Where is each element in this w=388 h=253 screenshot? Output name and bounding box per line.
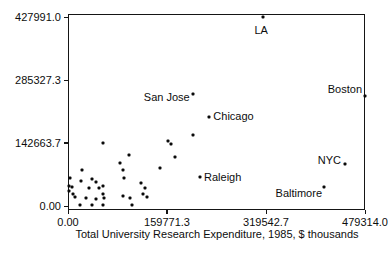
data-point — [71, 193, 74, 196]
data-point — [169, 142, 172, 145]
data-point — [90, 178, 93, 181]
point-label-san-jose: San Jose — [144, 91, 190, 103]
data-point — [118, 162, 121, 165]
x-axis-tick-label: 159771.3 — [144, 216, 190, 228]
data-point — [101, 141, 104, 144]
data-point-chicago — [208, 116, 211, 119]
y-axis-tick-label: 427991.0 — [15, 11, 61, 23]
data-point — [159, 167, 162, 170]
x-axis-tick — [166, 210, 167, 214]
point-label-la: LA — [254, 24, 267, 36]
data-point — [103, 196, 106, 199]
data-point-nyc — [344, 162, 347, 165]
data-point — [88, 186, 91, 189]
data-point-boston — [364, 94, 367, 97]
x-axis-tick — [68, 210, 69, 214]
data-point — [79, 203, 82, 206]
data-point — [174, 156, 177, 159]
x-axis-tick-label: 0.00 — [57, 216, 78, 228]
x-axis-title: Total University Research Expenditure, 1… — [75, 228, 358, 240]
y-axis-tick — [64, 142, 68, 143]
data-point — [95, 181, 98, 184]
point-label-boston: Boston — [328, 83, 362, 95]
x-axis-tick — [266, 210, 267, 214]
data-point — [79, 180, 82, 183]
point-label-chicago: Chicago — [213, 110, 253, 122]
data-point — [144, 186, 147, 189]
data-point — [141, 193, 144, 196]
data-point — [81, 169, 84, 172]
data-point — [95, 197, 98, 200]
data-point — [121, 168, 124, 171]
data-point — [101, 203, 104, 206]
data-point — [90, 203, 93, 206]
data-point — [101, 193, 104, 196]
data-point-la — [262, 16, 265, 19]
data-point — [130, 203, 133, 206]
data-point — [74, 195, 77, 198]
x-axis-tick-label: 319542.7 — [243, 216, 289, 228]
data-point — [101, 184, 104, 187]
data-point — [84, 196, 87, 199]
data-point — [68, 177, 71, 180]
x-axis-tick-label: 479314.0 — [342, 216, 388, 228]
data-point — [191, 133, 194, 136]
point-label-nyc: NYC — [318, 154, 341, 166]
y-axis-tick-label: 285327.3 — [15, 74, 61, 86]
data-point — [122, 194, 125, 197]
y-axis-tick — [64, 206, 68, 207]
point-label-baltimore: Baltimore — [276, 187, 322, 199]
x-axis-tick — [365, 210, 366, 214]
data-point-raleigh — [199, 175, 202, 178]
data-point-san-jose — [191, 93, 194, 96]
scatter-chart: Total University Research Expenditure, 1… — [0, 0, 388, 253]
data-point — [123, 177, 126, 180]
data-point — [145, 195, 148, 198]
y-axis-tick — [64, 80, 68, 81]
data-point — [129, 196, 132, 199]
data-point — [139, 182, 142, 185]
data-point-baltimore — [323, 186, 326, 189]
y-axis-tick-label: 142663.7 — [15, 137, 61, 149]
data-point — [128, 153, 131, 156]
y-axis-tick-label: 0.00 — [40, 200, 61, 212]
data-point — [71, 185, 74, 188]
data-point — [68, 189, 71, 192]
point-label-raleigh: Raleigh — [204, 171, 241, 183]
y-axis-tick — [64, 17, 68, 18]
